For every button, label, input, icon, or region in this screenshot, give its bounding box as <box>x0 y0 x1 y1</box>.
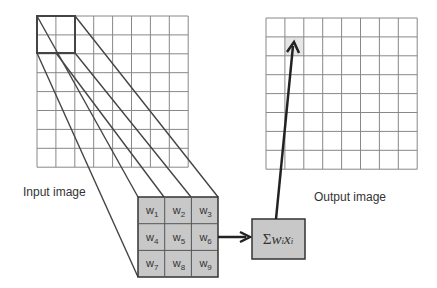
output-pixel-highlight <box>285 37 304 56</box>
input-image-label: Input image <box>23 185 86 199</box>
weighted-sum-formula: Σwixi <box>263 231 294 247</box>
kernel-grid: w1w2w3w4w5w6w7w8w9 <box>138 197 218 277</box>
output-image-label: Output image <box>314 190 386 204</box>
convolution-diagram: w1w2w3w4w5w6w7w8w9 Σwixi <box>0 0 437 288</box>
input-image-grid <box>37 16 188 167</box>
